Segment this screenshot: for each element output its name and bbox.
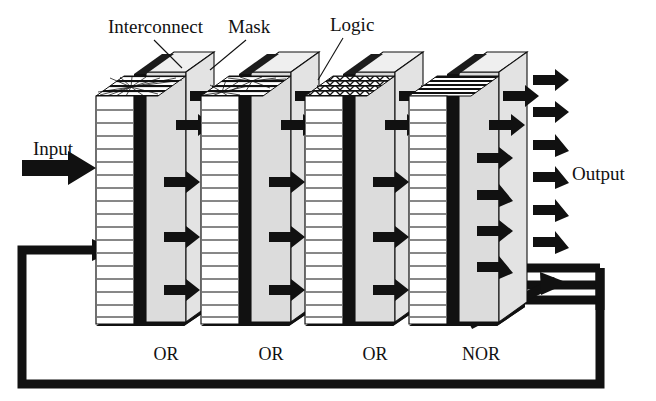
gate-label-stage-3: OR — [362, 344, 387, 364]
input-label: Input — [33, 138, 74, 159]
stage-2-mask — [239, 74, 251, 324]
stage-4-front-face — [409, 96, 447, 324]
gate-label-stage-4: NOR — [462, 344, 500, 364]
stage-2-front-face — [201, 96, 239, 324]
interconnect-label: Interconnect — [108, 16, 204, 37]
stage-3-logic-panel — [355, 72, 395, 322]
stage-3-front-face — [305, 96, 343, 324]
gate-label-stage-2: OR — [258, 344, 283, 364]
stage-2-logic-panel — [251, 72, 291, 322]
logic-label: Logic — [330, 14, 374, 35]
stage-1-logic-panel — [146, 72, 186, 322]
stage-1-front-face — [96, 96, 134, 324]
gate-label-stage-1: OR — [153, 344, 178, 364]
diagram-svg: Interconnect Mask Logic Input Output OR … — [0, 0, 656, 401]
stage-1-mask — [134, 74, 146, 324]
mask-label: Mask — [228, 16, 271, 37]
diagram-canvas: Interconnect Mask Logic Input Output OR … — [0, 0, 656, 401]
stage-3-mask — [343, 74, 355, 324]
stage-4-mask — [447, 74, 459, 324]
output-label: Output — [572, 163, 626, 184]
